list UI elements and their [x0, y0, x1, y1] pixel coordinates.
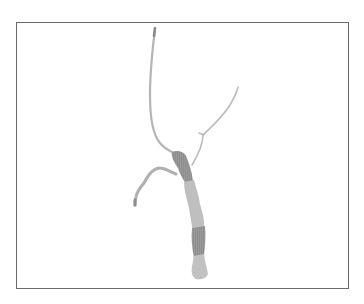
upper-left-branch	[150, 29, 172, 152]
branching-structure-figure	[0, 0, 364, 304]
trunk-lower-dark	[192, 226, 206, 258]
trunk-upper-dark	[172, 151, 193, 184]
lower-left-branch	[135, 168, 176, 205]
right-branch-spur	[199, 133, 204, 135]
trunk-middle-light	[184, 180, 204, 232]
branch-tip-top	[154, 28, 155, 36]
upper-right-branch	[192, 87, 238, 165]
trunk-base-light	[192, 254, 208, 279]
